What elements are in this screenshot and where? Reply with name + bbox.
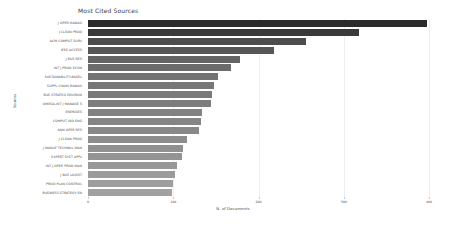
bar[interactable] [88, 38, 306, 45]
y-tick-label: INT J PROD ECON [54, 66, 82, 70]
bar-fill [88, 145, 183, 152]
y-tick-label: IEEE ACCESS [61, 48, 82, 52]
bar[interactable] [88, 56, 240, 63]
bar-fill [88, 64, 231, 71]
bar[interactable] [88, 73, 218, 80]
y-tick-label: ANN OPER RES [58, 128, 83, 132]
bar-fill [88, 189, 172, 196]
x-axis-title: N. of Documents [0, 206, 466, 211]
bar[interactable] [88, 47, 274, 54]
bar-fill [88, 171, 175, 178]
y-axis: J OPER MANAGJ CLEAN PRODACM COMPUT SURVI… [0, 19, 86, 197]
bar[interactable] [88, 118, 201, 125]
y-tick-label: J BUS LOGIST [60, 173, 82, 177]
y-tick-label: J MANUF TECHNOL MAN [43, 146, 82, 150]
y-tick-label: ENERGIES [66, 110, 82, 114]
y-tick-label: J CLEAN PROD [59, 30, 82, 34]
y-tick-label: SUSTAINABILITY-BASEL [45, 75, 82, 79]
x-tick-label: 200 [255, 200, 261, 204]
bar[interactable] [88, 29, 359, 36]
bar-fill [88, 38, 306, 45]
bar-fill [88, 118, 201, 125]
y-tick-label: J BUS RES [66, 57, 82, 61]
plot-area [88, 19, 429, 197]
y-tick-label: J OPER MANAG [58, 21, 82, 25]
y-tick-label: PROD PLAN CONTROL [46, 182, 82, 186]
bar[interactable] [88, 162, 177, 169]
y-tick-label: BUS STRATEG ENVIRON [43, 93, 82, 97]
bar[interactable] [88, 136, 187, 143]
bar[interactable] [88, 127, 199, 134]
bar[interactable] [88, 180, 173, 187]
bar-fill [88, 109, 202, 116]
grid-line [429, 19, 430, 197]
bar-fill [88, 162, 177, 169]
y-tick-label: SUPPL CHAIN MANAG [47, 84, 82, 88]
bar-fill [88, 56, 240, 63]
bar[interactable] [88, 109, 202, 116]
x-tick-label: 300 [341, 200, 347, 204]
y-tick-label: INT J OPER PROD MAN [46, 164, 82, 168]
y-tick-label: OMEGA-INT J MANAGE S [43, 102, 82, 106]
y-tick-label: ACM COMPUT SURV [50, 39, 82, 43]
y-tick-label: COMPUT IND ENG [53, 119, 82, 123]
bar[interactable] [88, 153, 182, 160]
y-tick-label: EXPERT SYST APPL [51, 155, 82, 159]
x-tick-label: 0 [87, 200, 89, 204]
bar[interactable] [88, 64, 231, 71]
chart-title: Most Cited Sources [78, 7, 138, 14]
bar-fill [88, 153, 182, 160]
bar[interactable] [88, 20, 427, 27]
most-cited-sources-chart: Most Cited Sources Sources J OPER MANAGJ… [0, 0, 466, 226]
bars-layer [88, 19, 429, 197]
bar-fill [88, 91, 212, 98]
bar-fill [88, 73, 218, 80]
x-tick-label: 100 [170, 200, 176, 204]
y-tick-label: BUSINESS STRATEGY EN [42, 191, 82, 195]
bar-fill [88, 29, 359, 36]
bar[interactable] [88, 145, 183, 152]
bar[interactable] [88, 171, 175, 178]
bar[interactable] [88, 189, 172, 196]
bar-fill [88, 82, 214, 89]
x-tick-label: 400 [426, 200, 432, 204]
bar-fill [88, 100, 211, 107]
bar-fill [88, 47, 274, 54]
y-tick-label: J CLEAN PROD [59, 137, 82, 141]
bar-fill [88, 127, 199, 134]
bar-fill [88, 180, 173, 187]
bar-fill [88, 20, 427, 27]
bar-fill [88, 136, 187, 143]
bar[interactable] [88, 100, 211, 107]
bar[interactable] [88, 82, 214, 89]
bar[interactable] [88, 91, 212, 98]
